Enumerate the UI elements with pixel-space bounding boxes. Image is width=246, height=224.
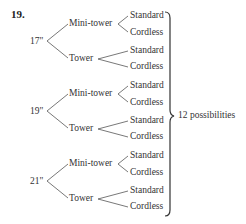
node-tower: Tower	[69, 194, 93, 204]
leaf-cordless: Cordless	[130, 202, 163, 212]
node-minitower: Mini-tower	[69, 19, 112, 29]
node-tower: Tower	[69, 54, 93, 64]
leaf-standard: Standard	[130, 81, 164, 91]
leaf-cordless: Cordless	[130, 98, 163, 108]
leaf-standard: Standard	[130, 151, 164, 161]
node-minitower: Mini-tower	[69, 159, 112, 169]
node-tower: Tower	[69, 124, 93, 134]
node-size-19: 19"	[30, 107, 43, 117]
leaf-cordless: Cordless	[130, 28, 163, 38]
leaf-cordless: Cordless	[130, 62, 163, 72]
node-size-17: 17"	[30, 37, 43, 47]
leaf-cordless: Cordless	[130, 132, 163, 142]
leaf-standard: Standard	[130, 116, 164, 126]
brace	[165, 12, 174, 216]
leaf-standard: Standard	[130, 11, 164, 21]
node-size-21: 21"	[30, 177, 43, 187]
leaf-standard: Standard	[130, 186, 164, 196]
leaf-cordless: Cordless	[130, 168, 163, 178]
summary-label: 12 possibilities	[178, 111, 235, 121]
leaf-standard: Standard	[130, 46, 164, 56]
node-minitower: Mini-tower	[69, 89, 112, 99]
